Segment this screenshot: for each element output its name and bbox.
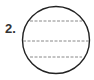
circle-outline bbox=[23, 7, 90, 74]
circle-diagram bbox=[0, 0, 94, 80]
